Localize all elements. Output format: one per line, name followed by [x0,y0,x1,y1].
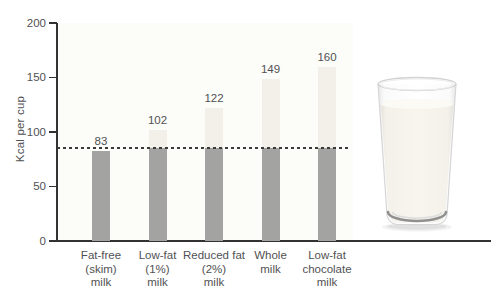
bar-excess-segment [318,67,336,149]
y-tick-mark [49,240,57,242]
milk-calories-bar-chart: Kcal per cup 05010015020083Fat-free (ski… [0,0,500,297]
bar-base-segment [205,148,223,241]
y-tick-mark [49,22,57,24]
y-tick-label: 150 [16,71,46,83]
bar-value-label: 160 [307,51,347,63]
bar-value-label: 149 [251,63,291,75]
bar-base-segment [149,148,167,241]
bar-base-segment [262,148,280,241]
milk-fill [381,99,453,223]
bar-excess-segment [262,79,280,149]
y-tick-mark [49,131,57,133]
bar-base-segment [318,148,336,241]
reference-dashed-line [57,147,348,149]
bar-base-segment [92,151,110,241]
bar-value-label: 83 [81,135,121,147]
bar-value-label: 122 [194,92,234,104]
milk-surface [381,99,453,109]
bar-excess-segment [149,130,167,149]
y-tick-label: 50 [16,180,46,192]
y-tick-mark [49,186,57,188]
x-axis-category-label: Low-fat chocolate milk [282,249,372,290]
y-tick-mark [49,77,57,79]
y-tick-label: 200 [16,17,46,29]
milk-glass-icon [366,70,470,236]
bar-value-label: 102 [138,114,178,126]
bar-excess-segment [205,108,223,148]
y-tick-label: 100 [16,126,46,138]
y-tick-label: 0 [16,235,46,247]
